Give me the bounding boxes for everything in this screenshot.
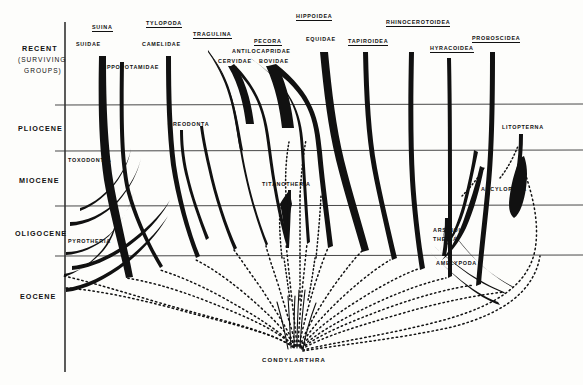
dotted-branch-amblypoda bbox=[302, 292, 504, 349]
taxon-label-titanotheria: TITANOTHERIA bbox=[262, 181, 311, 187]
dotted-branch-hyracoidea bbox=[301, 278, 446, 348]
taxon-label-tapiroidea: TAPIROIDEA bbox=[348, 38, 388, 46]
epoch-label-oligocene: OLIGOCENE bbox=[15, 229, 67, 238]
taxon-label-equidae: EQUIDAE bbox=[306, 36, 336, 42]
lineage-rhinocerotoidea bbox=[408, 52, 425, 270]
taxon-label-tylopoda: TYLOPODA bbox=[146, 20, 182, 28]
lineage-tapiroidea bbox=[363, 52, 397, 260]
taxon-label-hippopotamidae: HIPPOPOTAMIDAE bbox=[100, 64, 159, 70]
dotted-branch-ancylopoda bbox=[303, 256, 540, 351]
epoch-label-recent: RECENT bbox=[22, 44, 58, 53]
dotted-branch-toxodontia bbox=[64, 276, 293, 347]
taxon-label-oreodonta: OREODONTA bbox=[168, 121, 209, 127]
taxon-label-bovidae: BOVIDAE bbox=[259, 58, 289, 64]
taxon-label-cervidae: CERVIDAE bbox=[218, 58, 252, 64]
taxon-label-arsinoitheria-line1: ARSINOI- bbox=[433, 227, 463, 233]
dotted-branch-rhinocerotoidea bbox=[301, 269, 418, 347]
lineage-hippopotamidae bbox=[120, 62, 163, 268]
taxon-label-pecora: PECORA bbox=[254, 38, 282, 46]
axis-group bbox=[55, 22, 583, 372]
epoch-boundary-recent-pliocene bbox=[55, 104, 583, 105]
dotted-branch-pyrotheria bbox=[66, 288, 293, 347]
taxon-label-pyrotheria: PYROTHERIA bbox=[68, 238, 111, 244]
taxon-label-hippoidea: HIPPOIDEA bbox=[296, 13, 332, 21]
taxon-label-arsinoitheria-line2: THERIA bbox=[433, 236, 458, 242]
taxon-label-camelidae: CAMELIDAE bbox=[142, 41, 181, 47]
phylogeny-diagram: RECENT (SURVIVING GROUPS) PLIOCENE MIOCE… bbox=[0, 0, 583, 385]
taxon-label-proboscidea: PROBOSCIDEA bbox=[472, 35, 520, 43]
lineage-strokes-group bbox=[64, 50, 527, 305]
epoch-label-miocene: MIOCENE bbox=[19, 176, 60, 185]
taxon-label-condylarthra: CONDYLARTHRA bbox=[262, 357, 326, 363]
taxon-label-suidae: SUIDAE bbox=[76, 41, 101, 47]
dotted-stem-ruminant-mid bbox=[286, 142, 289, 196]
dotted-branch-oreodonta bbox=[234, 250, 295, 346]
taxon-label-toxodontia: TOXODONTIA bbox=[68, 157, 111, 163]
epoch-label-recent-sub1: (SURVIVING bbox=[18, 56, 66, 63]
taxon-label-rhinocerotoidea: RHINOCEROTOIDEA bbox=[386, 19, 450, 27]
taxon-label-amblypoda: AMBLYPODA bbox=[436, 260, 477, 266]
taxon-label-litopterna: LITOPTERNA bbox=[502, 124, 544, 130]
taxon-label-antilocapridae: ANTILOCAPRIDAE bbox=[232, 48, 291, 54]
taxon-label-ancylopoda: ANCYLOPODA bbox=[481, 186, 527, 192]
lineage-tragulina-stem bbox=[208, 50, 243, 150]
lineage-proboscidea bbox=[476, 52, 495, 286]
taxon-label-hyracoidea: HYRACOIDEA bbox=[430, 45, 474, 53]
taxon-label-tragulina: TRAGULINA bbox=[193, 31, 232, 39]
taxon-label-suina: SUINA bbox=[92, 24, 113, 32]
epoch-label-eocene: EOCENE bbox=[20, 292, 56, 301]
epoch-label-recent-sub2: GROUPS) bbox=[24, 67, 62, 74]
epoch-label-pliocene: PLIOCENE bbox=[18, 124, 63, 133]
stem-root-2 bbox=[297, 290, 299, 348]
dotted-branch-suidae bbox=[126, 278, 294, 347]
lineage-hyracoidea bbox=[447, 58, 452, 278]
tree-canvas bbox=[0, 0, 583, 385]
dotted-branch-cervidae bbox=[286, 244, 297, 346]
